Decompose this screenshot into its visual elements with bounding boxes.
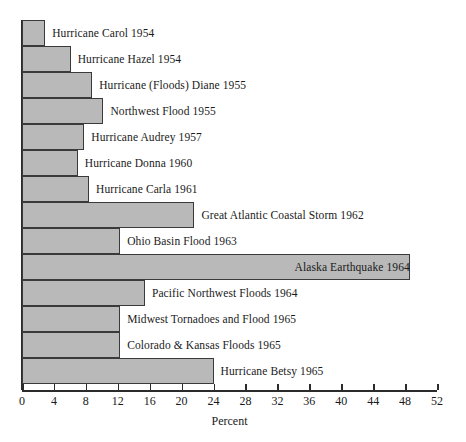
x-tick-label: 32 — [271, 394, 283, 409]
bar-row: Alaska Earthquake 1964 — [22, 254, 437, 280]
x-tick — [182, 384, 184, 390]
bar — [22, 72, 92, 98]
bar-label: Hurricane Audrey 1957 — [84, 124, 202, 150]
x-tick-label: 36 — [303, 394, 315, 409]
x-tick — [214, 384, 216, 390]
x-tick-label: 20 — [176, 394, 188, 409]
x-tick — [277, 384, 279, 390]
bar-row: Colorado & Kansas Floods 1965 — [22, 332, 437, 358]
bar — [22, 202, 194, 228]
bar-label: Alaska Earthquake 1964 — [22, 254, 419, 280]
bar-row: Hurricane Carla 1961 — [22, 176, 437, 202]
bar-row: Hurricane Donna 1960 — [22, 150, 437, 176]
bar-row: Hurricane (Floods) Diane 1955 — [22, 72, 437, 98]
bar — [22, 306, 120, 332]
x-tick-label: 4 — [51, 394, 57, 409]
bar-row: Pacific Northwest Floods 1964 — [22, 280, 437, 306]
bar-label: Pacific Northwest Floods 1964 — [145, 280, 298, 306]
bar-label: Hurricane (Floods) Diane 1955 — [92, 72, 246, 98]
x-tick-label: 44 — [367, 394, 379, 409]
bar-label: Great Atlantic Coastal Storm 1962 — [194, 202, 363, 228]
x-tick — [150, 384, 152, 390]
bar-label: Hurricane Donna 1960 — [78, 150, 192, 176]
bar-row: Ohio Basin Flood 1963 — [22, 228, 437, 254]
bar-row: Northwest Flood 1955 — [22, 98, 437, 124]
bar-row: Hurricane Carol 1954 — [22, 20, 437, 46]
bar — [22, 46, 71, 72]
bar-label: Hurricane Hazel 1954 — [71, 46, 182, 72]
bar-label: Northwest Flood 1955 — [103, 98, 216, 124]
x-tick — [22, 384, 24, 390]
bar-row: Midwest Tornadoes and Flood 1965 — [22, 306, 437, 332]
x-tick — [341, 384, 343, 390]
x-axis-line — [22, 390, 437, 392]
x-tick — [118, 384, 120, 390]
x-tick-label: 48 — [399, 394, 411, 409]
x-axis-title: Percent — [22, 414, 437, 429]
bar — [22, 176, 89, 202]
bar — [22, 98, 103, 124]
x-tick-label: 8 — [83, 394, 89, 409]
x-tick — [54, 384, 56, 390]
x-tick-label: 0 — [19, 394, 25, 409]
bar — [22, 228, 120, 254]
x-tick — [437, 384, 439, 390]
bar — [22, 280, 145, 306]
x-tick — [86, 384, 88, 390]
x-tick — [373, 384, 375, 390]
bar-label: Colorado & Kansas Floods 1965 — [120, 332, 281, 358]
bar-row: Great Atlantic Coastal Storm 1962 — [22, 202, 437, 228]
bar-label: Hurricane Carol 1954 — [45, 20, 154, 46]
bar — [22, 358, 214, 384]
bar-chart: Hurricane Carol 1954Hurricane Hazel 1954… — [0, 0, 466, 442]
x-axis: 0481216202428323640444852 Percent — [22, 390, 437, 442]
bar — [22, 124, 84, 150]
plot-area: Hurricane Carol 1954Hurricane Hazel 1954… — [22, 20, 437, 390]
x-tick — [245, 384, 247, 390]
bar-label: Midwest Tornadoes and Flood 1965 — [120, 306, 296, 332]
x-tick-label: 52 — [431, 394, 443, 409]
x-tick-label: 12 — [112, 394, 124, 409]
bar-label: Ohio Basin Flood 1963 — [120, 228, 237, 254]
x-tick — [405, 384, 407, 390]
x-tick-label: 28 — [239, 394, 251, 409]
bar-label: Hurricane Carla 1961 — [89, 176, 198, 202]
bar — [22, 332, 120, 358]
x-tick-label: 16 — [144, 394, 156, 409]
x-tick-label: 24 — [208, 394, 220, 409]
bar-label: Hurricane Betsy 1965 — [214, 358, 324, 384]
x-tick — [309, 384, 311, 390]
x-tick-label: 40 — [335, 394, 347, 409]
bar-row: Hurricane Audrey 1957 — [22, 124, 437, 150]
bar-row: Hurricane Betsy 1965 — [22, 358, 437, 384]
bar-row: Hurricane Hazel 1954 — [22, 46, 437, 72]
bar — [22, 20, 45, 46]
bar — [22, 150, 78, 176]
